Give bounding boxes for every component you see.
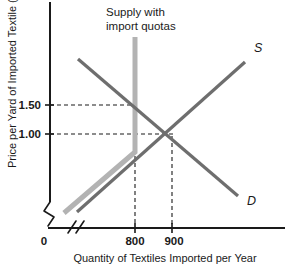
quota-annotation-line1: Supply with <box>106 6 165 18</box>
supply-curve <box>77 62 245 212</box>
y-axis-break-mark <box>44 202 54 226</box>
y-tick-label-150: 1.50 <box>19 99 41 111</box>
y-tick-label-100: 1.00 <box>19 128 41 140</box>
demand-curve <box>78 59 238 196</box>
supply-curve-label: S <box>254 41 263 55</box>
demand-curve-label: D <box>247 194 256 208</box>
quota-supply-curve <box>64 37 135 213</box>
origin-label: 0 <box>41 235 47 247</box>
x-tick-label-900: 900 <box>164 235 183 247</box>
economics-supply-demand-chart: Price per Yard of Imported Textile ($) Q… <box>0 0 285 268</box>
quota-annotation-line2: import quotas <box>106 20 176 32</box>
x-tick-label-800: 800 <box>125 235 144 247</box>
chart-canvas: Price per Yard of Imported Textile ($) Q… <box>0 0 285 268</box>
x-axis-title: Quantity of Textiles Imported per Year <box>73 252 257 264</box>
y-axis-title: Price per Yard of Imported Textile ($) <box>6 0 18 168</box>
